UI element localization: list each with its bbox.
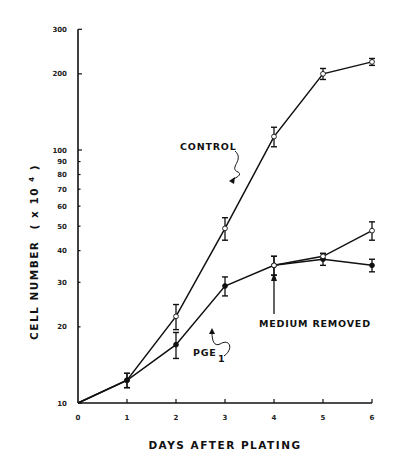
y-tick-label: 300 bbox=[52, 26, 67, 34]
data-point bbox=[223, 284, 228, 289]
x-tick-label: 3 bbox=[223, 414, 228, 422]
y-axis-title-unit: ( x 10 bbox=[28, 187, 40, 230]
data-point bbox=[272, 263, 277, 268]
y-tick-label: 70 bbox=[57, 186, 67, 194]
data-point bbox=[370, 263, 375, 268]
y-tick-label: 10 bbox=[57, 400, 67, 408]
data-series bbox=[78, 58, 375, 403]
y-tick-label: 30 bbox=[57, 279, 67, 287]
x-axis-title: DAYS AFTER PLATING bbox=[148, 439, 301, 451]
series-control-medium-removed bbox=[271, 222, 375, 275]
y-tick-label: 200 bbox=[52, 70, 67, 78]
x-tick-label: 4 bbox=[272, 414, 277, 422]
y-tick-label: 50 bbox=[57, 223, 67, 231]
x-tick-label: 2 bbox=[174, 414, 179, 422]
svg-text:1: 1 bbox=[218, 353, 225, 364]
data-point bbox=[223, 226, 228, 231]
y-tick-label: 80 bbox=[57, 171, 67, 179]
annotation-medium-removed: MEDIUM REMOVED bbox=[259, 273, 371, 329]
data-point bbox=[370, 59, 375, 64]
x-tick-label: 0 bbox=[76, 414, 81, 422]
svg-text:PGE: PGE bbox=[193, 347, 217, 358]
y-axis-title-close: ) bbox=[28, 164, 40, 170]
y-axis-title: CELL NUMBER ( x 10 4 ) bbox=[24, 164, 40, 340]
chart-canvas: 102030405060708090100200300 0123456 DAYS… bbox=[0, 0, 394, 473]
y-tick-label: 40 bbox=[57, 247, 67, 255]
axes bbox=[78, 29, 372, 403]
data-point bbox=[321, 254, 326, 259]
svg-text:CONTROL: CONTROL bbox=[180, 141, 237, 152]
y-tick-label: 20 bbox=[57, 323, 67, 331]
data-point bbox=[174, 314, 179, 319]
data-point bbox=[125, 378, 130, 383]
data-point bbox=[174, 342, 179, 347]
annotation-pge1: PGE 1 bbox=[193, 328, 230, 364]
svg-text:MEDIUM REMOVED: MEDIUM REMOVED bbox=[259, 318, 371, 329]
y-tick-label: 60 bbox=[57, 203, 67, 211]
y-tick-label: 90 bbox=[57, 158, 67, 166]
data-point bbox=[370, 228, 375, 233]
y-tick-label: 100 bbox=[52, 147, 67, 155]
annotation-control: CONTROL bbox=[180, 141, 240, 184]
svg-text:CELL NUMBER ( x 10: CELL NUMBER ( x 10 4 ) bbox=[24, 164, 40, 340]
y-axis-title-exp: 4 bbox=[28, 175, 36, 181]
data-point bbox=[321, 71, 326, 76]
x-tick-label: 6 bbox=[370, 414, 375, 422]
y-axis-title-main: CELL NUMBER bbox=[28, 241, 40, 340]
series-control bbox=[78, 58, 375, 403]
x-tick-label: 1 bbox=[125, 414, 130, 422]
x-tick-label: 5 bbox=[321, 414, 326, 422]
data-point bbox=[272, 134, 277, 139]
